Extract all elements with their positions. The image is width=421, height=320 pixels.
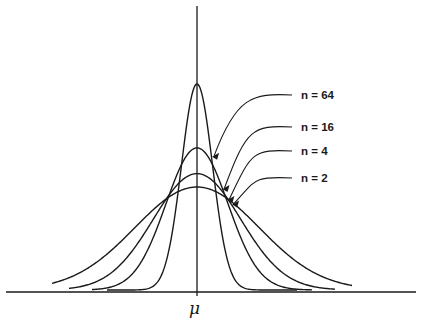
curve-n16	[92, 148, 312, 290]
leader-arrow	[229, 151, 292, 199]
curve-n2	[52, 187, 352, 285]
arrowhead-icon	[212, 153, 219, 160]
x-tick-label-mu: μ	[189, 298, 200, 318]
legend-label: n = 2	[301, 172, 328, 184]
legend-label: n = 16	[301, 121, 334, 133]
legend-label: n = 4	[301, 145, 328, 157]
curve-n4	[69, 174, 335, 290]
leader-arrow	[234, 178, 292, 204]
leader-arrow	[224, 127, 292, 188]
leader-arrow	[214, 95, 292, 156]
chart: n = 2n = 4n = 16n = 64 μ	[0, 0, 421, 320]
legend-label: n = 64	[301, 89, 335, 101]
